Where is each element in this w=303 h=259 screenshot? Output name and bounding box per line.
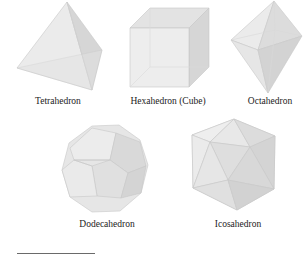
dodecahedron-label: Dodecahedron [79,220,134,230]
hexahedron-label: Hexahedron (Cube) [130,97,205,107]
hexahedron-shape [130,8,209,87]
icosahedron-label: Icosahedron [215,220,261,230]
octahedron-label: Octahedron [248,97,292,107]
octahedron-shape [231,1,302,93]
icosahedron-shape [192,119,275,210]
dodecahedron-shape [62,125,148,212]
footnote-rule [17,253,95,254]
tetrahedron-shape [17,2,102,90]
tetrahedron-label: Tetrahedron [35,97,81,107]
